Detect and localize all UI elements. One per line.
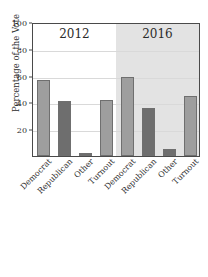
bar-2012-democrat [37, 80, 50, 156]
y-axis-title: Percentage of the Vote [11, 3, 21, 123]
y-tick-label-20: 20 [17, 126, 27, 135]
x-axis-labels: DemocratRepublicanOtherTurnoutDemocratRe… [32, 157, 200, 227]
chart-title [0, 0, 208, 5]
